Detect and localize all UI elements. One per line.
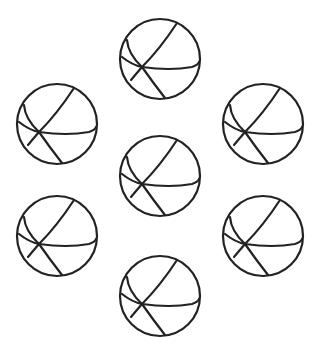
beach-ball-svg	[218, 191, 308, 281]
beach-ball-bottom-icon	[115, 251, 205, 341]
beach-ball-top-icon	[115, 14, 205, 104]
beach-ball-lower-right-icon	[218, 191, 308, 281]
beach-ball-svg	[115, 251, 205, 341]
beach-ball-lower-left-icon	[12, 191, 102, 281]
beach-ball-svg	[12, 191, 102, 281]
beach-ball-svg	[115, 14, 205, 104]
beach-ball-svg	[218, 79, 308, 169]
beach-ball-upper-left-icon	[12, 79, 102, 169]
beach-ball-svg	[12, 79, 102, 169]
beach-ball-svg	[115, 131, 205, 221]
beach-ball-upper-right-icon	[218, 79, 308, 169]
beach-ball-center-icon	[115, 131, 205, 221]
beach-balls-canvas	[0, 0, 321, 363]
